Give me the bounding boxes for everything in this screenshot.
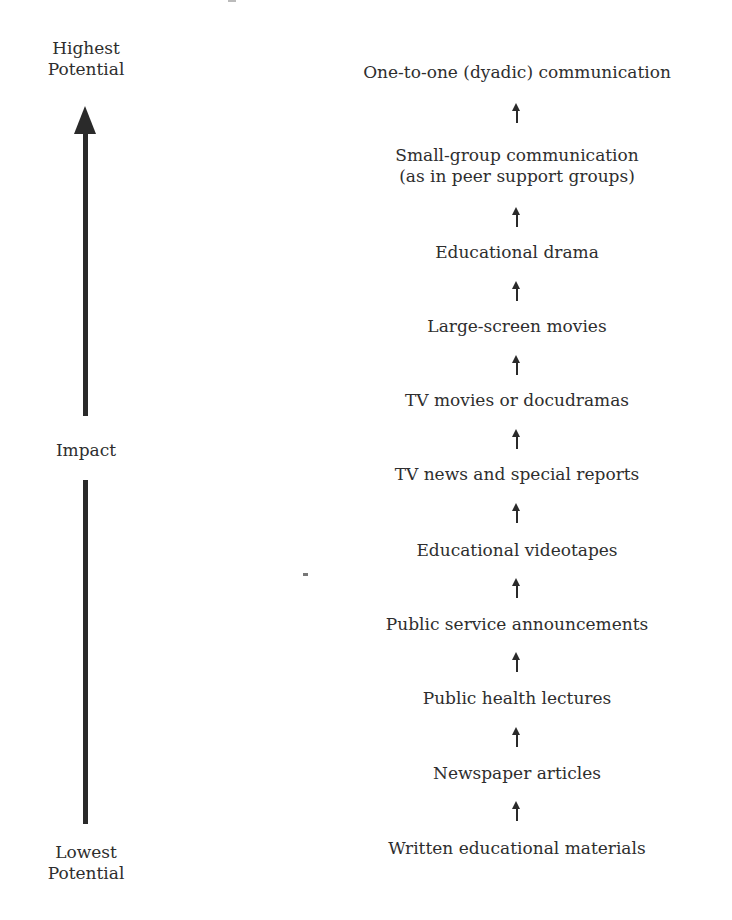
axis-top-label-line1: Highest <box>6 38 166 59</box>
up-arrow-icon <box>515 578 518 598</box>
scan-artifact <box>303 573 308 576</box>
up-arrow-icon <box>515 801 518 821</box>
axis-bottom-label-line1: Lowest <box>6 842 166 863</box>
axis-bottom-label-line2: Potential <box>6 863 166 884</box>
axis-bar-upper <box>83 130 88 416</box>
axis-top-label: Highest Potential <box>6 38 166 80</box>
axis-top-label-line2: Potential <box>6 59 166 80</box>
hierarchy-item-line2: (as in peer support groups) <box>352 166 682 187</box>
hierarchy-item: One-to-one (dyadic) communication <box>352 62 682 83</box>
axis-bar-lower <box>83 480 88 824</box>
scan-artifact <box>228 0 236 2</box>
hierarchy-item: TV news and special reports <box>352 464 682 485</box>
hierarchy-item: TV movies or docudramas <box>352 390 682 411</box>
axis-bottom-label: Lowest Potential <box>6 842 166 884</box>
up-arrow-icon <box>515 652 518 672</box>
hierarchy-item: Large-screen movies <box>352 316 682 337</box>
up-arrow-icon <box>515 281 518 301</box>
hierarchy-item: Newspaper articles <box>352 763 682 784</box>
hierarchy-item: Small-group communication (as in peer su… <box>352 145 682 187</box>
axis-middle-label: Impact <box>6 440 166 461</box>
hierarchy-item-line1: Small-group communication <box>352 145 682 166</box>
up-arrow-icon <box>515 429 518 449</box>
up-arrow-icon <box>515 727 518 747</box>
up-arrow-icon <box>515 207 518 227</box>
hierarchy-item: Public service announcements <box>352 614 682 635</box>
hierarchy-item: Written educational materials <box>352 838 682 859</box>
hierarchy-item: Public health lectures <box>352 688 682 709</box>
up-arrow-icon <box>515 503 518 523</box>
up-arrow-icon <box>515 355 518 375</box>
up-arrow-icon <box>515 103 518 123</box>
hierarchy-item: Educational drama <box>352 242 682 263</box>
hierarchy-item: Educational videotapes <box>352 540 682 561</box>
